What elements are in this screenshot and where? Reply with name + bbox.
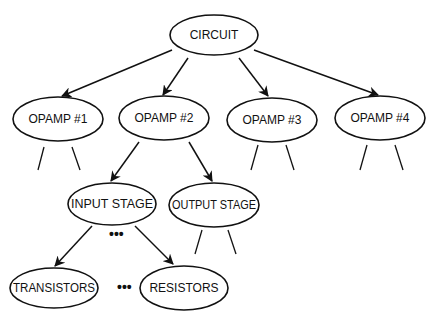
node-label: OPAMP #3 <box>243 113 302 127</box>
edge-opamp2-to-output_stage <box>189 142 212 181</box>
edge-circuit-to-opamp4 <box>254 50 378 95</box>
edge-circuit-to-opamp2 <box>163 58 188 95</box>
node-label: INPUT STAGE <box>71 197 153 211</box>
edges-group <box>55 50 378 266</box>
node-output_stage: OUTPUT STAGE <box>169 183 259 227</box>
node-transistors: TRANSISTORS <box>10 268 98 308</box>
node-opamp3: OPAMP #3 <box>227 98 317 142</box>
stub-line-opamp4 <box>395 145 403 170</box>
edge-opamp2-to-input_stage <box>111 142 139 181</box>
edge-input_stage-to-resistors <box>135 226 173 264</box>
ellipsis-marker: ••• <box>109 226 124 242</box>
ellipsis-marker: ••• <box>117 279 132 295</box>
node-opamp2: OPAMP #2 <box>119 96 209 140</box>
node-label: CIRCUIT <box>190 28 239 42</box>
node-circuit: CIRCUIT <box>170 15 258 55</box>
edge-input_stage-to-transistors <box>55 226 92 266</box>
node-opamp1: OPAMP #1 <box>13 97 103 141</box>
stub-line-output_stage <box>228 230 236 254</box>
node-label: OPAMP #2 <box>135 111 194 125</box>
stub-line-opamp1 <box>38 147 44 170</box>
edge-circuit-to-opamp3 <box>239 58 268 96</box>
node-label: RESISTORS <box>149 281 218 295</box>
stub-line-opamp1 <box>72 147 80 170</box>
node-input_stage: INPUT STAGE <box>68 183 156 225</box>
node-opamp4: OPAMP #4 <box>335 96 425 140</box>
node-label: OPAMP #4 <box>351 111 410 125</box>
edge-circuit-to-opamp1 <box>62 50 172 96</box>
ellipsis-group: •••••• <box>109 226 132 295</box>
node-label: TRANSISTORS <box>13 281 95 295</box>
node-resistors: RESISTORS <box>140 266 228 310</box>
stub-line-opamp3 <box>251 145 258 170</box>
circuit-hierarchy-diagram: CIRCUITOPAMP #1OPAMP #2OPAMP #3OPAMP #4I… <box>0 0 436 320</box>
diagram-svg: CIRCUITOPAMP #1OPAMP #2OPAMP #3OPAMP #4I… <box>0 0 436 320</box>
stub-line-opamp3 <box>286 145 294 170</box>
node-label: OUTPUT STAGE <box>172 198 256 212</box>
stub-line-output_stage <box>195 230 202 254</box>
stub-line-opamp4 <box>360 145 367 170</box>
node-label: OPAMP #1 <box>29 112 88 126</box>
